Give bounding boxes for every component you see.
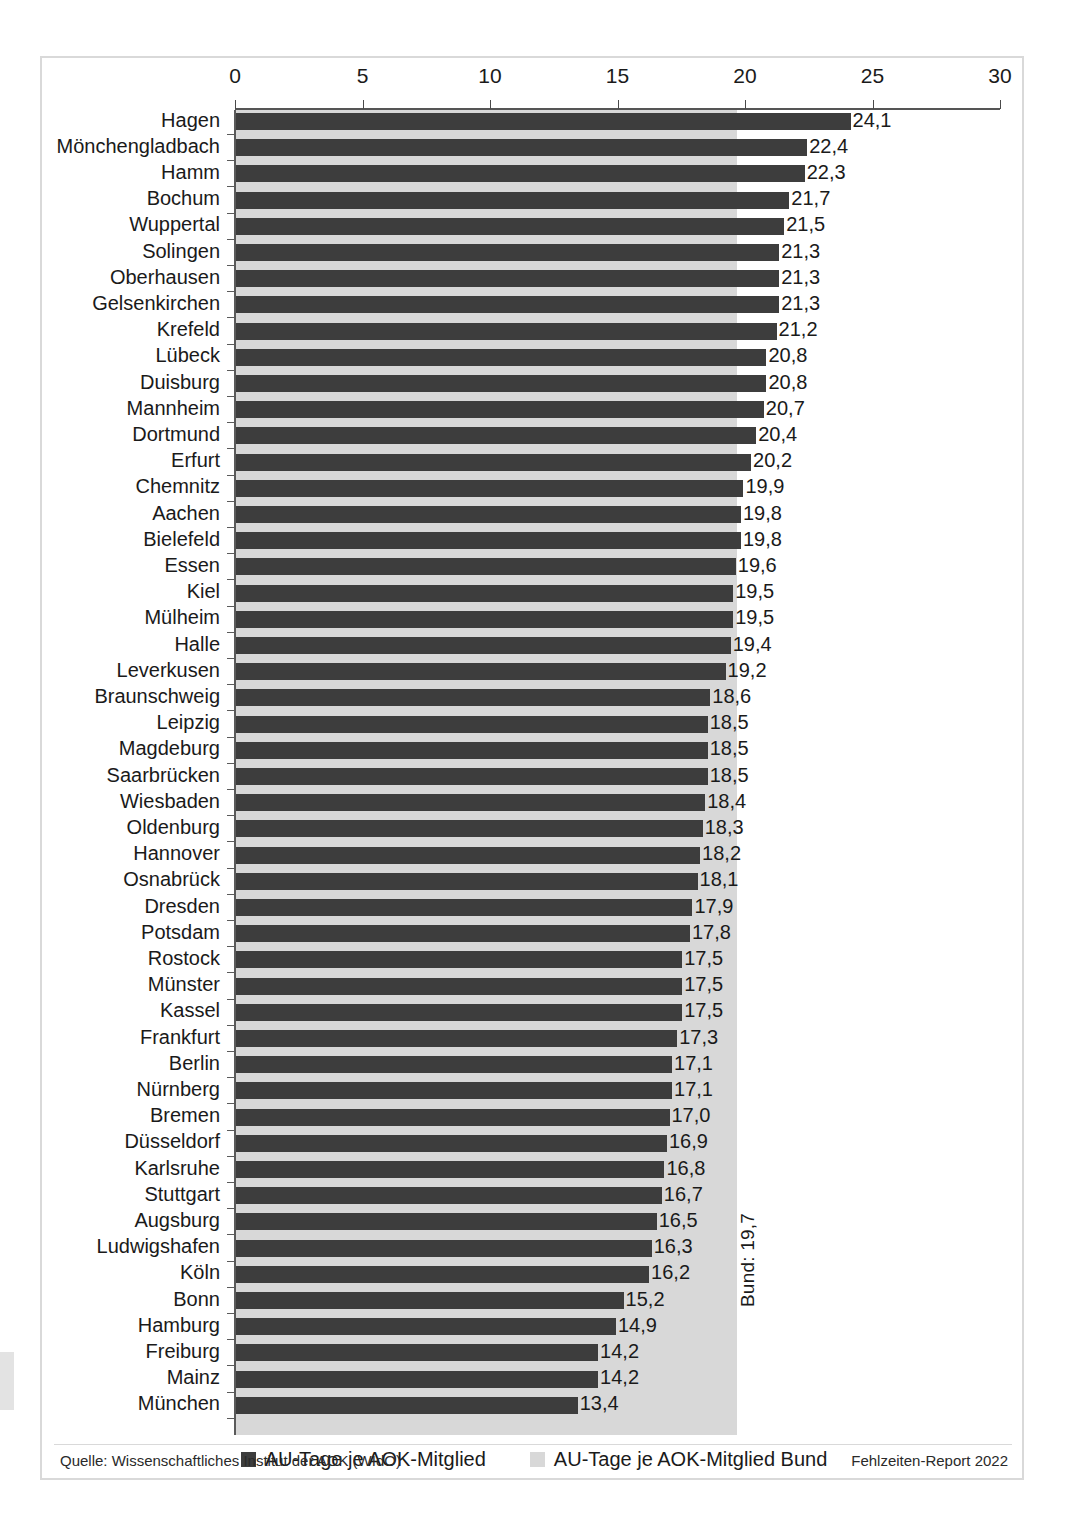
- bar-category-label: Rostock: [0, 947, 220, 970]
- bar-value-label: 14,2: [600, 1366, 639, 1389]
- bar-value-label: 16,3: [654, 1235, 693, 1258]
- bar-category-label: Leverkusen: [0, 659, 220, 682]
- bar-category-label: Hamm: [0, 161, 220, 184]
- bar-category-label: Köln: [0, 1261, 220, 1284]
- bar-category-label: Mannheim: [0, 397, 220, 420]
- footer-report: Fehlzeiten-Report 2022: [851, 1452, 1008, 1469]
- bar-category-label: Solingen: [0, 240, 220, 263]
- bar: [236, 663, 726, 680]
- bar-value-label: 14,2: [600, 1340, 639, 1363]
- bar-category-label: Magdeburg: [0, 737, 220, 760]
- bar-value-label: 17,8: [692, 921, 731, 944]
- bar-value-label: 15,2: [626, 1288, 665, 1311]
- bar-value-label: 21,3: [781, 240, 820, 263]
- y-axis-tick-mark: [227, 1182, 235, 1183]
- bar: [236, 611, 733, 628]
- bar-value-label: 21,5: [786, 213, 825, 236]
- bar: [236, 820, 703, 837]
- bar-category-label: München: [0, 1392, 220, 1415]
- bar: [236, 506, 741, 523]
- bar: [236, 244, 779, 261]
- bar-category-label: Erfurt: [0, 449, 220, 472]
- bar-value-label: 17,5: [684, 999, 723, 1022]
- y-axis-tick-mark: [227, 213, 235, 214]
- bar-value-label: 20,2: [753, 449, 792, 472]
- bar-value-label: 21,2: [779, 318, 818, 341]
- y-axis-tick-mark: [227, 815, 235, 816]
- y-axis-tick-mark: [227, 606, 235, 607]
- y-axis-tick-mark: [227, 344, 235, 345]
- footer-source: Quelle: Wissenschaftliches Institut der …: [60, 1452, 401, 1469]
- bar: [236, 716, 708, 733]
- bar: [236, 218, 784, 235]
- bar-value-label: 17,9: [694, 895, 733, 918]
- bar-value-label: 18,5: [710, 764, 749, 787]
- chart-figure: 051015202530 Bund: 19,7 Hagen24,1Mönchen…: [40, 56, 1024, 1480]
- bar: [236, 270, 779, 287]
- bar-value-label: 16,5: [659, 1209, 698, 1232]
- bar: [236, 165, 805, 182]
- y-axis-tick-mark: [227, 527, 235, 528]
- bar: [236, 323, 777, 340]
- bar-category-label: Lübeck: [0, 344, 220, 367]
- bar-category-label: Kiel: [0, 580, 220, 603]
- bar: [236, 847, 700, 864]
- x-axis-tick-label: 15: [606, 64, 629, 88]
- y-axis-tick-mark: [227, 789, 235, 790]
- bar-category-label: Duisburg: [0, 371, 220, 394]
- y-axis-tick-mark: [227, 894, 235, 895]
- bar-category-label: Ludwigshafen: [0, 1235, 220, 1258]
- y-axis-tick-mark: [227, 684, 235, 685]
- y-axis-tick-mark: [227, 475, 235, 476]
- bar-value-label: 20,8: [768, 371, 807, 394]
- y-axis-tick-mark: [227, 632, 235, 633]
- y-axis-tick-mark: [227, 999, 235, 1000]
- bar: [236, 349, 766, 366]
- bar-value-label: 16,9: [669, 1130, 708, 1153]
- bar-category-label: Mainz: [0, 1366, 220, 1389]
- bar: [236, 1397, 578, 1414]
- bar-value-label: 17,0: [672, 1104, 711, 1127]
- y-axis-tick-mark: [227, 658, 235, 659]
- y-axis-tick-mark: [227, 160, 235, 161]
- bar-category-label: Oldenburg: [0, 816, 220, 839]
- bar: [236, 296, 779, 313]
- y-axis-tick-mark: [227, 239, 235, 240]
- bar-category-label: Aachen: [0, 502, 220, 525]
- y-axis-tick-mark: [227, 134, 235, 135]
- bar-value-label: 21,7: [791, 187, 830, 210]
- x-axis-tick-mark: [363, 100, 364, 109]
- y-axis-tick-mark: [227, 422, 235, 423]
- bar: [236, 1056, 672, 1073]
- bar: [236, 978, 682, 995]
- bar-value-label: 19,6: [738, 554, 777, 577]
- bar: [236, 192, 789, 209]
- bar: [236, 742, 708, 759]
- x-axis-tick-mark: [490, 100, 491, 109]
- bar-value-label: 22,4: [809, 135, 848, 158]
- bar: [236, 1109, 670, 1126]
- bar: [236, 1240, 652, 1257]
- bar-value-label: 19,8: [743, 528, 782, 551]
- bar: [236, 873, 698, 890]
- bar-value-label: 21,3: [781, 292, 820, 315]
- x-axis-tick-label: 30: [988, 64, 1011, 88]
- y-axis-tick-mark: [227, 1392, 235, 1393]
- y-axis-tick-mark: [227, 186, 235, 187]
- y-axis-tick-mark: [227, 1418, 235, 1419]
- y-axis-tick-mark: [227, 1365, 235, 1366]
- bar: [236, 532, 741, 549]
- bar-value-label: 16,8: [666, 1157, 705, 1180]
- bar-value-label: 24,1: [853, 109, 892, 132]
- bar-category-label: Dortmund: [0, 423, 220, 446]
- bar: [236, 1292, 624, 1309]
- y-axis-tick-mark: [227, 1339, 235, 1340]
- x-axis-tick-label: 0: [229, 64, 241, 88]
- bar-category-label: Augsburg: [0, 1209, 220, 1232]
- y-axis-tick-mark: [227, 868, 235, 869]
- bar: [236, 1344, 598, 1361]
- bar: [236, 1187, 662, 1204]
- y-axis-tick-mark: [227, 1130, 235, 1131]
- bar-value-label: 21,3: [781, 266, 820, 289]
- bar-category-label: Frankfurt: [0, 1026, 220, 1049]
